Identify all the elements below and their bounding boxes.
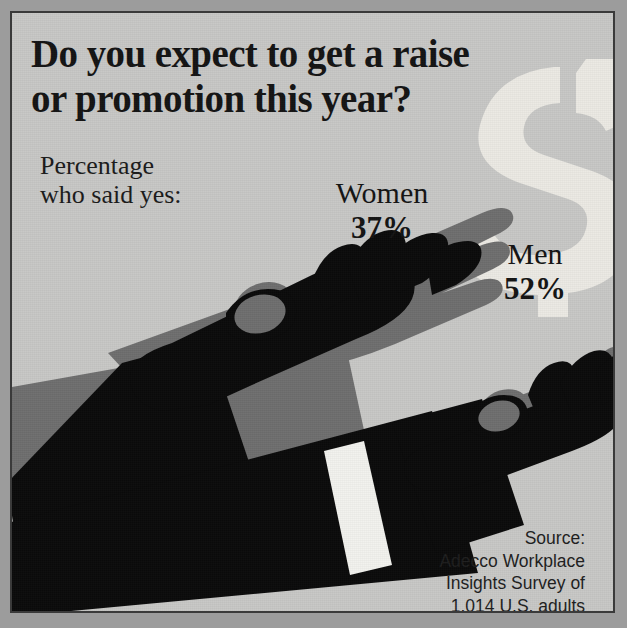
source-credit: Source: Adecco Workplace Insights Survey… bbox=[285, 527, 585, 613]
source-line-4: 1.014 U.S. adults bbox=[285, 595, 585, 614]
headline-line-1: Do you expect to get a raise bbox=[31, 30, 469, 76]
headline-line-2: or promotion this year? bbox=[31, 76, 544, 121]
page-title: Do you expect to get a raise or promotio… bbox=[31, 31, 544, 121]
stat-men-label: Men bbox=[460, 237, 610, 271]
subtitle: Percentage who said yes: bbox=[40, 151, 182, 209]
source-line-1: Source: bbox=[285, 527, 585, 550]
infographic-poster: Do you expect to get a raise or promotio… bbox=[0, 0, 627, 628]
subtitle-line-2: who said yes: bbox=[40, 180, 182, 209]
source-line-2: Adecco Workplace bbox=[285, 550, 585, 573]
poster-frame: Do you expect to get a raise or promotio… bbox=[10, 11, 615, 613]
stat-women: Women 37% bbox=[302, 176, 462, 246]
subtitle-line-1: Percentage bbox=[40, 151, 182, 180]
stat-women-label: Women bbox=[302, 176, 462, 210]
text-layer: Do you expect to get a raise or promotio… bbox=[12, 13, 613, 611]
stat-men-value: 52% bbox=[460, 271, 610, 307]
source-line-3: Insights Survey of bbox=[285, 572, 585, 595]
stat-women-value: 37% bbox=[302, 210, 462, 246]
stat-men: Men 52% bbox=[460, 237, 610, 307]
